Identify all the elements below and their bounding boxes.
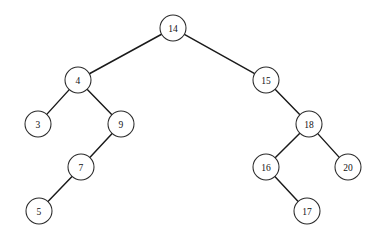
tree-node-9[interactable]: 9 xyxy=(108,111,134,137)
tree-node-5[interactable]: 5 xyxy=(26,198,52,224)
tree-edge-15-18 xyxy=(275,89,300,114)
tree-node-15[interactable]: 15 xyxy=(253,67,279,93)
tree-node-label: 18 xyxy=(304,120,314,130)
tree-node-17[interactable]: 17 xyxy=(294,198,320,224)
tree-node-label: 4 xyxy=(76,76,81,86)
tree-edge-7-5 xyxy=(48,176,72,201)
tree-node-label: 3 xyxy=(36,120,41,130)
tree-edge-4-9 xyxy=(87,89,112,114)
tree-node-label: 14 xyxy=(168,24,178,34)
binary-tree-diagram: 14415391871620517 xyxy=(0,0,381,237)
tree-node-label: 16 xyxy=(261,163,271,173)
tree-node-label: 5 xyxy=(37,207,42,217)
tree-edge-16-17 xyxy=(275,177,298,202)
tree-node-3[interactable]: 3 xyxy=(25,111,51,137)
tree-edge-14-15 xyxy=(184,34,254,73)
tree-edge-18-20 xyxy=(318,134,340,158)
tree-edge-14-4 xyxy=(89,34,161,74)
tree-node-4[interactable]: 4 xyxy=(65,67,91,93)
tree-node-16[interactable]: 16 xyxy=(253,154,279,180)
tree-node-20[interactable]: 20 xyxy=(335,154,361,180)
tree-node-label: 7 xyxy=(79,163,84,173)
tree-node-14[interactable]: 14 xyxy=(160,15,186,41)
tree-node-7[interactable]: 7 xyxy=(68,154,94,180)
tree-node-label: 20 xyxy=(343,163,353,173)
tree-node-label: 15 xyxy=(261,76,271,86)
tree-edge-9-7 xyxy=(90,134,112,158)
tree-edge-4-3 xyxy=(47,90,70,115)
tree-canvas: 14415391871620517 xyxy=(0,0,381,237)
tree-node-18[interactable]: 18 xyxy=(296,111,322,137)
tree-edge-18-16 xyxy=(275,133,300,158)
tree-node-label: 9 xyxy=(119,120,124,130)
node-layer: 14415391871620517 xyxy=(25,15,361,224)
tree-node-label: 17 xyxy=(302,207,312,217)
